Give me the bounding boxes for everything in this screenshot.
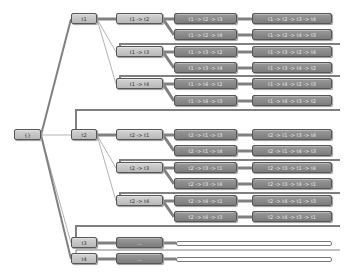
node-label: t2 [74,130,94,140]
node-label: t1 -> t3 -> t2 -> t4 [255,47,329,57]
node-label: t2 -> t1 -> t3 -> t4 [255,130,329,140]
node-t2-t1[interactable]: t2 -> t1 [116,129,163,140]
node-label: t2 -> t1 -> t3 [177,130,234,140]
node-l4-0[interactable]: t1 -> t2 -> t3 -> t4 [252,13,332,24]
node-t1[interactable]: t1 [71,13,97,24]
node-l3-3[interactable]: t1 -> t3 -> t4 [174,62,237,73]
node-label: ... [119,238,160,248]
node-label: t2 -> t1 -> t4 -> t3 [255,146,329,156]
node-label: {} [17,130,38,140]
node-label: t1 -> t4 -> t3 [177,96,234,106]
node-l4-2[interactable]: t1 -> t3 -> t2 -> t4 [252,46,332,57]
node-label: ... [119,254,160,264]
node-label: t1 -> t2 -> t4 -> t3 [255,30,329,40]
node-t2-t3[interactable]: t2 -> t3 [116,162,163,173]
node-t1-t2[interactable]: t1 -> t2 [116,13,163,24]
node-l3-9[interactable]: t2 -> t3 -> t4 [174,178,237,189]
node-l3-4[interactable]: t1 -> t4 -> t2 [174,78,237,89]
node-t3[interactable]: t3 [71,237,97,248]
collapsed-branch-t3[interactable] [176,241,332,246]
node-label: t2 -> t4 [119,196,160,206]
node-t1-t3[interactable]: t1 -> t3 [116,46,163,57]
node-label: t2 -> t4 -> t1 [177,196,234,206]
node-t2[interactable]: t2 [71,129,97,140]
node-l3-8[interactable]: t2 -> t3 -> t1 [174,162,237,173]
node-label: t3 [74,238,94,248]
node-t4[interactable]: t4 [71,253,97,264]
node-label: t1 -> t2 -> t3 [177,14,234,24]
node-l3-6[interactable]: t2 -> t1 -> t3 [174,129,237,140]
node-label: t1 -> t2 [119,14,160,24]
node-label: t1 -> t4 -> t2 -> t3 [255,79,329,89]
permutation-tree-diagram: {} t1 t2 t3 t4 t1 -> t2 t1 -> t3 t1 -> t… [0,0,349,279]
node-label: t2 -> t3 -> t4 [177,179,234,189]
node-label: t1 -> t3 [119,47,160,57]
node-label: t2 -> t3 -> t1 [177,163,234,173]
node-label: t2 -> t4 -> t3 -> t1 [255,212,329,222]
node-label: t4 [74,254,94,264]
node-label: t1 [74,14,94,24]
node-l4-4[interactable]: t1 -> t4 -> t2 -> t3 [252,78,332,89]
node-l3-7[interactable]: t2 -> t1 -> t4 [174,145,237,156]
node-l4-9[interactable]: t2 -> t3 -> t4 -> t1 [252,178,332,189]
node-l4-7[interactable]: t2 -> t1 -> t4 -> t3 [252,145,332,156]
node-label: t1 -> t2 -> t3 -> t4 [255,14,329,24]
node-l3-11[interactable]: t2 -> t4 -> t3 [174,211,237,222]
node-label: t2 -> t1 -> t4 [177,146,234,156]
node-t2-t4[interactable]: t2 -> t4 [116,195,163,206]
node-l4-1[interactable]: t1 -> t2 -> t4 -> t3 [252,29,332,40]
node-l3-10[interactable]: t2 -> t4 -> t1 [174,195,237,206]
node-label: t2 -> t4 -> t1 -> t3 [255,196,329,206]
node-label: t1 -> t4 -> t3 -> t2 [255,96,329,106]
node-t1-t4[interactable]: t1 -> t4 [116,78,163,89]
node-label: t1 -> t3 -> t4 -> t2 [255,63,329,73]
node-label: t2 -> t3 -> t1 -> t4 [255,163,329,173]
node-t3-collapsed[interactable]: ... [116,237,163,248]
node-label: t2 -> t3 [119,163,160,173]
node-label: t2 -> t1 [119,130,160,140]
node-label: t2 -> t3 -> t4 -> t1 [255,179,329,189]
node-l4-10[interactable]: t2 -> t4 -> t1 -> t3 [252,195,332,206]
node-label: t1 -> t4 [119,79,160,89]
node-l3-5[interactable]: t1 -> t4 -> t3 [174,95,237,106]
node-label: t2 -> t4 -> t3 [177,212,234,222]
node-label: t1 -> t2 -> t4 [177,30,234,40]
node-l4-6[interactable]: t2 -> t1 -> t3 -> t4 [252,129,332,140]
collapsed-branch-t4[interactable] [176,257,332,262]
node-t4-collapsed[interactable]: ... [116,253,163,264]
node-l3-1[interactable]: t1 -> t2 -> t4 [174,29,237,40]
node-l4-11[interactable]: t2 -> t4 -> t3 -> t1 [252,211,332,222]
node-label: t1 -> t4 -> t2 [177,79,234,89]
node-l4-5[interactable]: t1 -> t4 -> t3 -> t2 [252,95,332,106]
node-label: t1 -> t3 -> t4 [177,63,234,73]
node-l3-2[interactable]: t1 -> t3 -> t2 [174,46,237,57]
node-l3-0[interactable]: t1 -> t2 -> t3 [174,13,237,24]
node-l4-8[interactable]: t2 -> t3 -> t1 -> t4 [252,162,332,173]
node-label: t1 -> t3 -> t2 [177,47,234,57]
root-node[interactable]: {} [14,129,41,140]
node-l4-3[interactable]: t1 -> t3 -> t4 -> t2 [252,62,332,73]
